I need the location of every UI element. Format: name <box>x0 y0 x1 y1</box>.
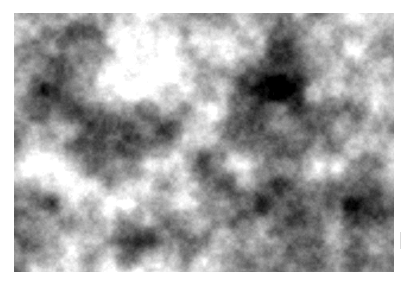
right-margin-tick-mark <box>400 232 401 249</box>
figure-canvas: Grayscale fractal cloud noise texture Mo… <box>0 0 411 295</box>
noise-texture-image <box>14 13 394 272</box>
noise-texture-panel <box>14 13 394 272</box>
figure-title: Grayscale fractal cloud noise texture <box>0 0 1 1</box>
figure-alt-text: Monochrome cloud-like fractal noise fill… <box>0 0 1 1</box>
